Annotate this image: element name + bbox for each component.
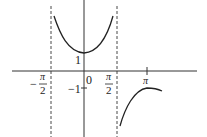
label-pi-half-num: π bbox=[106, 71, 112, 82]
secant-graph: 1 0 −1 − π 2 π 2 π bbox=[0, 0, 207, 137]
label-pi-half-den: 2 bbox=[106, 84, 112, 96]
label-pi: π bbox=[143, 75, 149, 86]
label-neg-one: −1 bbox=[68, 82, 81, 96]
label-neg-pi-half-den: 2 bbox=[40, 84, 46, 96]
label-neg-pi-half-num: π bbox=[40, 71, 46, 82]
label-neg-pi-half-sign: − bbox=[30, 77, 37, 91]
lower-branch-curve bbox=[120, 88, 162, 126]
label-zero: 0 bbox=[86, 73, 92, 87]
label-one: 1 bbox=[75, 53, 81, 67]
